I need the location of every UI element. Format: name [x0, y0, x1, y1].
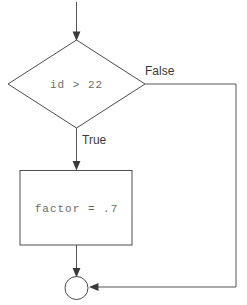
edge-false: [89, 84, 236, 291]
flowchart-canvas: id > 22 factor = .7 False True: [0, 0, 247, 305]
process-label: factor = .7: [35, 203, 119, 215]
edge-process-merge: [73, 245, 81, 278]
entry-arrow: [73, 2, 81, 41]
process-box[interactable]: factor = .7: [20, 171, 132, 246]
false-label: False: [145, 64, 175, 78]
flowchart-svg: id > 22 factor = .7 False True: [0, 0, 247, 305]
decision-diamond[interactable]: id > 22: [8, 40, 145, 128]
merge-circle[interactable]: [65, 277, 88, 300]
decision-label: id > 22: [50, 79, 103, 91]
edge-true: [73, 128, 81, 171]
true-label: True: [82, 133, 107, 147]
